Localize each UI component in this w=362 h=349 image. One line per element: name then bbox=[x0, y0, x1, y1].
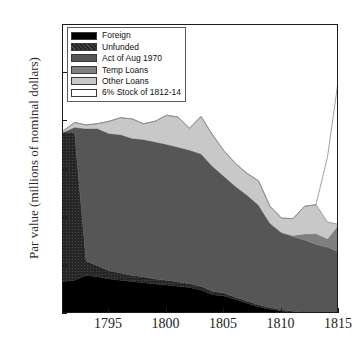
legend-swatch bbox=[71, 54, 97, 62]
x-tick-label: 1810 bbox=[251, 316, 311, 332]
chart-legend: ForeignUnfundedAct of Aug 1970Temp Loans… bbox=[67, 27, 186, 102]
x-tick-mark bbox=[108, 308, 109, 313]
legend-label: Act of Aug 1970 bbox=[102, 54, 162, 63]
legend-swatch bbox=[71, 66, 97, 74]
legend-item: Temp Loans bbox=[71, 64, 182, 75]
y-tick-mark bbox=[62, 313, 67, 314]
legend-label: 6% Stock of 1812-14 bbox=[102, 88, 181, 97]
legend-label: Unfunded bbox=[102, 43, 139, 52]
chart-figure: Par value (millions of nominal dollars) … bbox=[0, 0, 362, 349]
y-tick-mark bbox=[62, 120, 67, 121]
y-axis-title: Par value (millions of nominal dollars) bbox=[26, 28, 42, 288]
legend-label: Other Loans bbox=[102, 77, 149, 86]
legend-swatch bbox=[71, 43, 97, 51]
y-tick-mark bbox=[62, 217, 67, 218]
legend-item: 6% Stock of 1812-14 bbox=[71, 87, 182, 98]
x-tick-label: 1815 bbox=[308, 316, 362, 332]
legend-swatch bbox=[71, 89, 97, 97]
y-tick-mark bbox=[62, 24, 67, 25]
y-tick-mark bbox=[62, 169, 67, 170]
legend-item: Act of Aug 1970 bbox=[71, 53, 182, 64]
legend-item: Other Loans bbox=[71, 76, 182, 87]
x-tick-mark bbox=[338, 308, 339, 313]
x-tick-mark bbox=[281, 308, 282, 313]
legend-swatch bbox=[71, 32, 97, 40]
x-tick-label: 1805 bbox=[193, 316, 253, 332]
legend-item: Foreign bbox=[71, 30, 182, 41]
x-tick-mark bbox=[166, 308, 167, 313]
x-tick-label: 1795 bbox=[78, 316, 138, 332]
y-tick-mark bbox=[62, 265, 67, 266]
legend-item: Unfunded bbox=[71, 41, 182, 52]
legend-label: Foreign bbox=[102, 31, 131, 40]
x-tick-mark bbox=[223, 308, 224, 313]
legend-swatch bbox=[71, 77, 97, 85]
legend-label: Temp Loans bbox=[102, 66, 148, 75]
x-tick-label: 1800 bbox=[136, 316, 196, 332]
